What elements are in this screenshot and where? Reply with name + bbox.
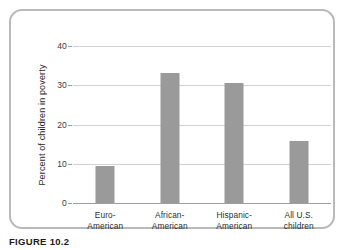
bar-slot: Hispanic-American: [202, 46, 267, 203]
bar-slot: African-American: [138, 46, 203, 203]
y-tick-mark-40: [68, 46, 72, 47]
figure-caption: FIGURE 10.2: [9, 236, 339, 247]
x-category-label: Euro-American: [87, 210, 123, 231]
y-axis-title: Percent of children in poverty: [35, 46, 49, 203]
x-category-label: All U.S.children: [284, 210, 314, 231]
y-tick-label-20: 20: [57, 120, 67, 130]
y-tick-label-30: 30: [57, 80, 67, 90]
y-tick-mark-0: [68, 203, 72, 204]
x-category-label: African-American: [152, 210, 188, 231]
y-tick-label-0: 0: [62, 198, 67, 208]
y-tick-mark-20: [68, 125, 72, 126]
figure-caption-label: FIGURE 10.2: [9, 236, 69, 247]
bar: [96, 166, 115, 203]
y-axis-title-text: Percent of children in poverty: [37, 64, 47, 185]
y-tick-label-10: 10: [57, 159, 67, 169]
bar: [225, 83, 244, 203]
x-category-label: Hispanic-American: [216, 210, 252, 231]
y-tick-label-40: 40: [57, 41, 67, 51]
y-tick-mark-30: [68, 85, 72, 86]
bar: [289, 141, 308, 203]
gridline-0: [73, 203, 331, 204]
bar-slot: All U.S.children: [267, 46, 332, 203]
plot-area: 010203040 Euro-AmericanAfrican-AmericanH…: [73, 46, 331, 203]
bar-slot: Euro-American: [73, 46, 138, 203]
bar: [160, 73, 179, 203]
bar-series: Euro-AmericanAfrican-AmericanHispanic-Am…: [73, 46, 331, 203]
y-tick-mark-10: [68, 164, 72, 165]
figure-container: Percent of children in poverty 010203040…: [0, 0, 348, 250]
chart-panel: Percent of children in poverty 010203040…: [9, 9, 335, 229]
